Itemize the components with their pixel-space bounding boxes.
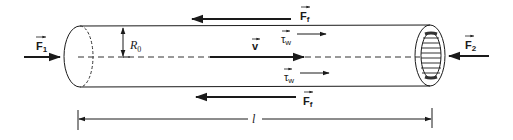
pipe bbox=[64, 25, 445, 87]
pipe-bottom-edge bbox=[80, 86, 430, 87]
force-f1: F1 bbox=[24, 37, 60, 57]
pipe-left-end-front bbox=[64, 26, 80, 87]
tau-bottom-label: τw bbox=[284, 71, 294, 85]
wall-shear-top: τw bbox=[281, 31, 326, 47]
pipe-diagram: F1 R0 Ff τw v τw Ff F2 bbox=[0, 0, 513, 140]
r0-label: R0 bbox=[129, 38, 141, 54]
v-label: v bbox=[252, 40, 259, 52]
friction-force-bottom: Ff bbox=[196, 92, 313, 109]
friction-force-top: Ff bbox=[192, 7, 310, 24]
ff-bottom-label: Ff bbox=[303, 95, 313, 109]
pipe-right-end-inner bbox=[421, 33, 441, 79]
length-label: l bbox=[252, 112, 256, 126]
radius-r0: R0 bbox=[123, 28, 141, 57]
tau-top-label: τw bbox=[281, 33, 291, 47]
wall-shear-bottom: τw bbox=[284, 69, 329, 85]
ff-top-label: Ff bbox=[300, 10, 310, 24]
f1-label: F1 bbox=[36, 40, 48, 54]
pipe-top-edge bbox=[80, 25, 430, 26]
length-dimension: l bbox=[78, 108, 432, 130]
force-f2: F2 bbox=[449, 36, 489, 56]
f2-label: F2 bbox=[465, 39, 477, 53]
